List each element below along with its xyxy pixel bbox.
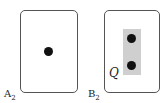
dot-a [44,47,53,56]
dot-b-top [127,34,136,43]
region-label-q: Q [109,66,119,80]
label-a: A2 [4,88,16,102]
dot-b-bottom [127,61,136,70]
label-b: B2 [88,88,100,102]
